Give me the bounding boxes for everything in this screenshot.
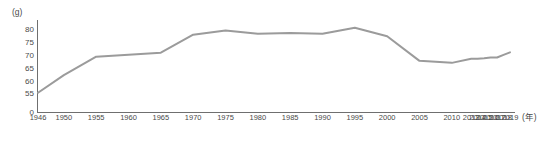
data-series-line	[38, 28, 510, 93]
line-chart: (g) (年) 8075706560550 194619501955196019…	[0, 0, 552, 142]
chart-plot-area	[0, 0, 552, 142]
